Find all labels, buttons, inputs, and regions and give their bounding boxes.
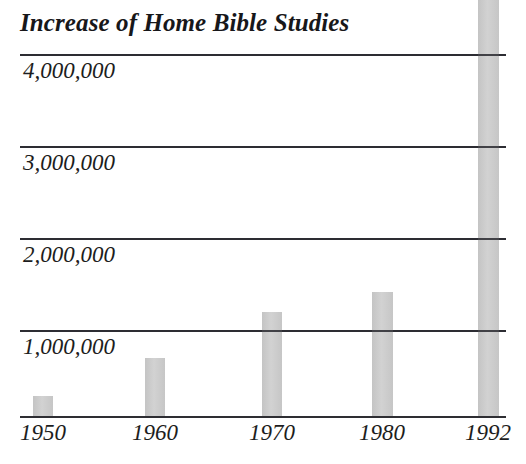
bar-chart-figure: Increase of Home Bible Studies 4,000,000… (0, 0, 526, 464)
x-tick-label-1980: 1980 (359, 420, 405, 446)
x-axis-baseline (20, 416, 506, 418)
bar-1980 (372, 292, 393, 417)
bar-1992 (478, 0, 499, 417)
y-tick-label-4000000: 4,000,000 (23, 58, 115, 84)
gridline-1000000-overlay (20, 330, 506, 332)
gridline-4000000-overlay (20, 54, 506, 56)
y-tick-label-3000000: 3,000,000 (23, 150, 115, 176)
bar-1970 (262, 312, 282, 417)
bar-1960 (145, 358, 165, 417)
bar-1950 (33, 396, 53, 417)
x-tick-label-1960: 1960 (132, 420, 178, 446)
x-tick-label-1950: 1950 (20, 420, 66, 446)
x-tick-label-1992: 1992 (465, 420, 511, 446)
gridline-2000000-overlay (20, 238, 506, 240)
x-tick-label-1970: 1970 (249, 420, 295, 446)
y-tick-label-1000000: 1,000,000 (23, 334, 115, 360)
plot-area: 4,000,000 3,000,000 2,000,000 1,000,000 … (20, 0, 506, 464)
gridline-3000000-overlay (20, 146, 506, 148)
y-tick-label-2000000: 2,000,000 (23, 242, 115, 268)
